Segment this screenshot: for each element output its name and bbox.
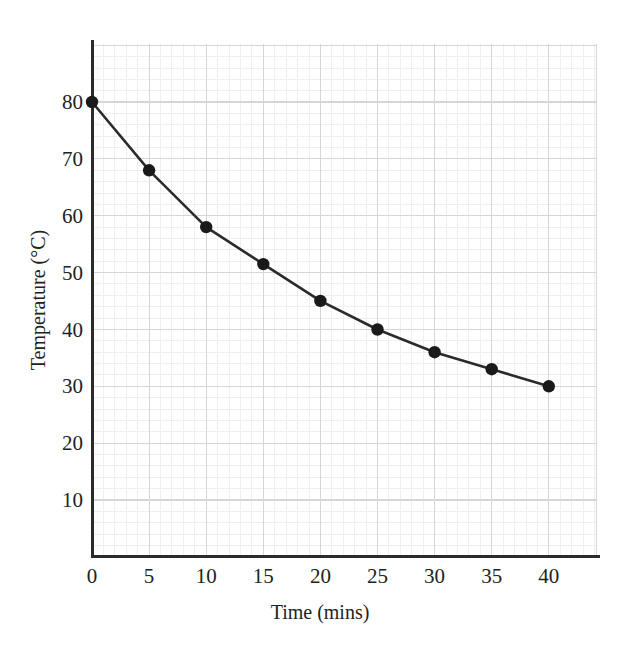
x-tick-label: 10 <box>196 564 217 588</box>
y-tick-label: 10 <box>62 488 83 512</box>
x-tick-label: 35 <box>481 564 502 588</box>
y-tick-label: 40 <box>62 318 83 342</box>
data-point <box>257 258 269 270</box>
y-axis-title: Temperature (°C) <box>27 230 50 370</box>
x-tick-label: 5 <box>144 564 155 588</box>
y-tick-labels: 80 70 60 50 40 30 20 10 <box>62 90 83 512</box>
x-tick-label: 0 <box>87 564 98 588</box>
x-tick-label: 20 <box>310 564 331 588</box>
y-tick-label: 60 <box>62 204 83 228</box>
y-tick-label: 20 <box>62 431 83 455</box>
data-point <box>371 323 383 335</box>
line-chart-figure: 80 70 60 50 40 30 20 10 0 5 10 15 20 25 … <box>0 0 625 651</box>
data-point <box>200 221 212 233</box>
chart-canvas: 80 70 60 50 40 30 20 10 0 5 10 15 20 25 … <box>0 0 625 651</box>
x-axis-title: Time (mins) <box>271 601 370 624</box>
x-tick-label: 15 <box>253 564 274 588</box>
y-tick-label: 30 <box>62 374 83 398</box>
data-point <box>314 295 326 307</box>
data-point <box>86 96 98 108</box>
y-tick-label: 50 <box>62 261 83 285</box>
x-tick-label: 25 <box>367 564 388 588</box>
x-tick-labels: 0 5 10 15 20 25 30 35 40 <box>87 564 560 588</box>
y-tick-label: 70 <box>62 147 83 171</box>
data-point <box>543 380 555 392</box>
data-point <box>428 346 440 358</box>
y-tick-label: 80 <box>62 90 83 114</box>
data-point <box>143 164 155 176</box>
plot-background <box>92 44 597 556</box>
data-point <box>486 363 498 375</box>
x-tick-label: 30 <box>424 564 445 588</box>
x-tick-label: 40 <box>538 564 559 588</box>
